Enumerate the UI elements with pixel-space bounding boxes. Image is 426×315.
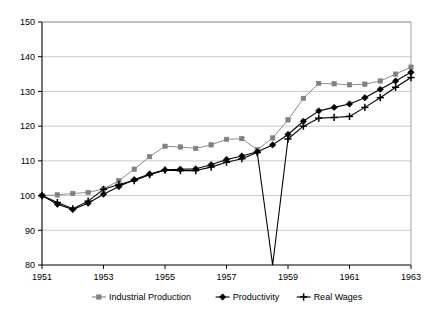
data-point-industrial-production-19 xyxy=(332,82,336,86)
data-point-productivity-18 xyxy=(316,108,322,114)
data-point-industrial-production-21 xyxy=(363,82,367,86)
data-point-real-wages-2 xyxy=(69,205,76,212)
data-point-industrial-production-9 xyxy=(178,145,182,149)
data-point-industrial-production-11 xyxy=(209,143,213,147)
y-tick-label-100: 100 xyxy=(20,191,35,201)
data-point-productivity-20 xyxy=(346,101,352,107)
data-point-industrial-production-10 xyxy=(194,146,198,150)
data-point-real-wages-18 xyxy=(315,115,322,122)
data-point-industrial-production-2 xyxy=(71,191,75,195)
data-point-real-wages-19 xyxy=(331,114,338,121)
legend-item-productivity[interactable]: Productivity xyxy=(216,292,280,302)
y-tick-label-80: 80 xyxy=(25,260,35,270)
data-point-productivity-19 xyxy=(331,104,337,110)
data-point-real-wages-21 xyxy=(361,104,368,111)
data-point-industrial-production-20 xyxy=(347,83,351,87)
data-point-real-wages-23 xyxy=(392,84,399,91)
y-tick-label-110: 110 xyxy=(21,156,35,166)
gridlines: 8090100110120130140150 xyxy=(20,17,411,270)
data-point-industrial-production-22 xyxy=(378,79,382,83)
series-industrial-production xyxy=(40,65,413,198)
x-tick-label-1951: 1951 xyxy=(32,272,52,282)
x-tick-label-1963: 1963 xyxy=(401,272,421,282)
legend: Industrial ProductionProductivityReal Wa… xyxy=(92,292,363,302)
data-point-industrial-production-1 xyxy=(55,193,59,197)
y-tick-label-140: 140 xyxy=(20,52,35,62)
data-point-productivity-15 xyxy=(269,142,275,148)
legend-marker-industrial-production xyxy=(97,295,101,299)
data-point-industrial-production-15 xyxy=(270,136,274,140)
data-point-productivity-21 xyxy=(362,94,368,100)
data-point-industrial-production-23 xyxy=(393,72,397,76)
data-point-industrial-production-7 xyxy=(147,154,151,158)
data-point-real-wages-0 xyxy=(38,192,45,199)
data-point-productivity-23 xyxy=(392,78,398,84)
data-point-real-wages-22 xyxy=(377,94,384,101)
legend-label-productivity: Productivity xyxy=(233,292,280,302)
legend-item-industrial-production[interactable]: Industrial Production xyxy=(92,292,191,302)
x-tick-label-1961: 1961 xyxy=(339,272,359,282)
line-real-wages xyxy=(42,78,411,265)
legend-item-real-wages[interactable]: Real Wages xyxy=(297,292,363,302)
x-ticks: 1951195319551957195919611963 xyxy=(32,265,421,282)
chart-container: 8090100110120130140150195119531955195719… xyxy=(0,0,426,315)
data-point-real-wages-24 xyxy=(407,74,414,81)
data-point-industrial-production-17 xyxy=(301,96,305,100)
data-point-industrial-production-16 xyxy=(286,118,290,122)
legend-marker-real-wages xyxy=(300,293,307,300)
y-tick-label-130: 130 xyxy=(20,87,35,97)
data-point-industrial-production-8 xyxy=(163,144,167,148)
line-chart: 8090100110120130140150195119531955195719… xyxy=(0,0,426,315)
y-tick-label-120: 120 xyxy=(20,121,35,131)
x-tick-label-1959: 1959 xyxy=(278,272,298,282)
x-tick-label-1957: 1957 xyxy=(216,272,236,282)
x-tick-label-1955: 1955 xyxy=(155,272,175,282)
legend-label-industrial-production: Industrial Production xyxy=(109,292,191,302)
legend-label-real-wages: Real Wages xyxy=(314,292,363,302)
data-point-real-wages-14 xyxy=(254,149,261,156)
line-industrial-production xyxy=(42,67,411,195)
data-point-industrial-production-24 xyxy=(409,65,413,69)
data-point-real-wages-7 xyxy=(146,171,153,178)
data-point-industrial-production-6 xyxy=(132,167,136,171)
series-real-wages xyxy=(38,74,414,265)
data-point-real-wages-8 xyxy=(161,167,168,174)
data-point-industrial-production-18 xyxy=(317,81,321,85)
y-tick-label-90: 90 xyxy=(25,226,35,236)
data-point-real-wages-9 xyxy=(177,167,184,174)
x-tick-label-1953: 1953 xyxy=(93,272,113,282)
y-tick-label-150: 150 xyxy=(20,17,35,27)
data-point-industrial-production-3 xyxy=(86,190,90,194)
legend-marker-productivity xyxy=(219,294,225,300)
data-point-industrial-production-12 xyxy=(224,137,228,141)
data-point-industrial-production-13 xyxy=(240,136,244,140)
data-point-real-wages-20 xyxy=(346,113,353,120)
axes xyxy=(42,22,411,265)
